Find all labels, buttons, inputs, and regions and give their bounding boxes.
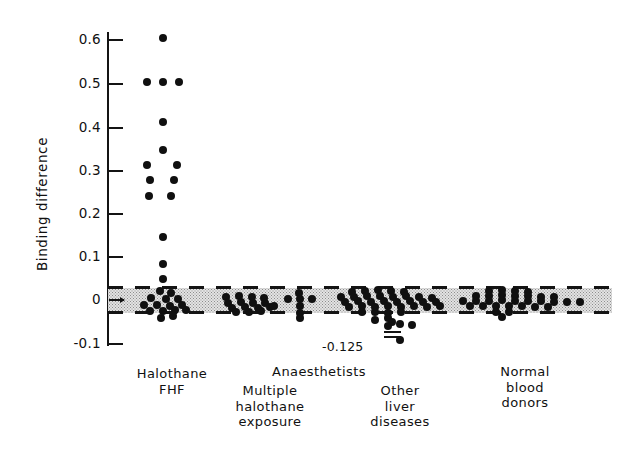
y-tick-label-1: 0.5: [53, 75, 101, 91]
data-point: [410, 302, 418, 310]
data-point: [308, 295, 316, 303]
data-point: [159, 275, 167, 283]
data-point: [156, 287, 164, 295]
data-point: [159, 233, 167, 241]
data-point: [466, 302, 474, 310]
data-point: [143, 161, 151, 169]
data-point: [146, 307, 154, 315]
data-point: [576, 298, 584, 306]
y-tick-1: [109, 83, 123, 85]
data-point: [518, 302, 526, 310]
data-point: [159, 118, 167, 126]
y-tick-label-5: 0.1: [53, 248, 101, 264]
outlier-value-label: -0.125: [322, 339, 364, 354]
data-point: [498, 313, 506, 321]
data-point: [245, 308, 253, 316]
y-tick-5: [109, 256, 123, 258]
y-tick-2: [109, 127, 123, 129]
data-point: [146, 176, 154, 184]
y-tick-0: [109, 39, 123, 41]
data-point: [479, 302, 487, 310]
data-point: [232, 308, 240, 316]
y-axis-title: Binding difference: [34, 74, 50, 334]
y-tick-4: [109, 213, 123, 215]
category-label-other-liver-diseases: Other liver diseases: [345, 383, 455, 430]
y-tick-7: [109, 343, 123, 345]
y-tick-label-2: 0.4: [53, 119, 101, 135]
category-label-anaesthetists: Anaesthetists: [244, 364, 394, 380]
data-point: [159, 146, 167, 154]
data-point: [397, 308, 405, 316]
data-point: [544, 303, 552, 311]
axis-break-icon: [384, 331, 401, 333]
data-point: [257, 307, 265, 315]
data-point: [143, 78, 151, 86]
data-point: [296, 314, 304, 322]
data-point: [436, 302, 444, 310]
y-tick-3: [109, 170, 123, 172]
data-point: [408, 321, 416, 329]
data-point: [169, 312, 177, 320]
y-tick-label-6: 0: [53, 291, 101, 307]
category-label-halothane-fhf: Halothane FHF: [112, 366, 232, 397]
data-point: [563, 298, 571, 306]
category-label-multiple-halothane: Multiple halothane exposure: [215, 383, 325, 430]
binding-difference-dot-plot: Binding difference 0.60.50.40.30.20.10-0…: [0, 0, 630, 457]
data-point: [384, 322, 392, 330]
y-tick-label-7: -0.1: [53, 335, 101, 351]
data-point: [423, 303, 431, 311]
data-point: [182, 306, 190, 314]
y-tick-label-0: 0.6: [53, 31, 101, 47]
data-point: [175, 78, 183, 86]
y-tick-label-3: 0.3: [53, 162, 101, 178]
category-label-normal-blood-donors: Normal blood donors: [470, 364, 580, 411]
data-point: [505, 308, 513, 316]
data-point: [157, 314, 165, 322]
data-point: [371, 308, 379, 316]
data-point: [284, 295, 292, 303]
data-point: [159, 260, 167, 268]
data-point: [145, 192, 153, 200]
reference-band-top-border: [108, 286, 612, 289]
data-point: [159, 78, 167, 86]
data-point: [358, 308, 366, 316]
data-point: [345, 303, 353, 311]
zero-line-arrow: [109, 299, 124, 301]
data-point: [170, 176, 178, 184]
data-point: [173, 161, 181, 169]
data-point: [371, 316, 379, 324]
y-tick-label-4: 0.2: [53, 205, 101, 221]
data-point: [270, 302, 278, 310]
data-point: [396, 320, 404, 328]
axis-break-icon-2: [384, 336, 401, 338]
data-point: [167, 192, 175, 200]
data-point: [531, 303, 539, 311]
data-point: [159, 34, 167, 42]
